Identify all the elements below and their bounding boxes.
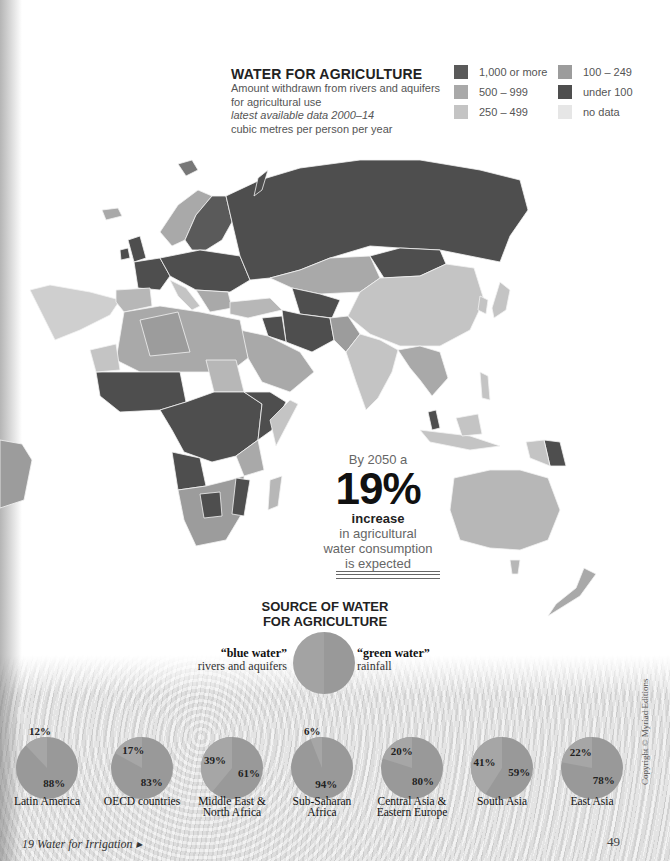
region-pie-chart [0, 0, 670, 861]
page-number: 49 [607, 834, 620, 850]
green-percent: 78% [593, 774, 615, 786]
copyright-notice: Copyright © Myriad Editions [640, 678, 650, 785]
region-label: East Asia [537, 796, 647, 807]
blue-percent: 22% [570, 746, 592, 758]
section-link[interactable]: 19 Water for Irrigation ▸ [22, 837, 142, 852]
atlas-page: WATER FOR AGRICULTURE Amount withdrawn f… [0, 0, 670, 861]
